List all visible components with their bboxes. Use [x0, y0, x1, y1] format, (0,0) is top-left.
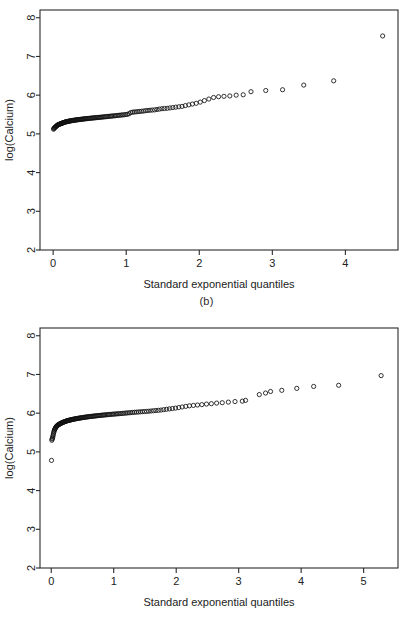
x-tick-label: 1 [111, 575, 117, 587]
data-point [268, 389, 272, 393]
data-point [222, 94, 226, 98]
y-tick-label: 8 [25, 15, 37, 21]
qq-plot-panel-b: 234567801234Standard exponential quantil… [0, 0, 413, 318]
x-axis: 012345 [48, 568, 367, 587]
data-point-series [51, 34, 384, 131]
y-tick-label: 7 [25, 53, 37, 59]
data-point [233, 399, 237, 403]
qq-plot-panel-c: 2345678012345Standard exponential quanti… [0, 318, 413, 636]
data-point [302, 83, 306, 87]
data-point [215, 401, 219, 405]
data-point [216, 95, 220, 99]
x-tick-label: 3 [236, 575, 242, 587]
data-point [257, 392, 261, 396]
data-point [228, 94, 232, 98]
data-point [200, 403, 204, 407]
data-point [280, 88, 284, 92]
y-axis-title: log(Calcium) [3, 417, 15, 479]
x-tick-label: 5 [361, 575, 367, 587]
data-point [381, 34, 385, 38]
x-axis-title: Standard exponential quantiles [143, 278, 295, 290]
data-point [207, 97, 211, 101]
x-tick-label: 1 [123, 257, 129, 269]
y-tick-label: 6 [25, 410, 37, 416]
y-tick-label: 3 [25, 526, 37, 532]
data-point [49, 458, 53, 462]
y-tick-label: 5 [25, 449, 37, 455]
y-axis-title: log(Calcium) [3, 99, 15, 161]
data-point [234, 93, 238, 97]
data-point [263, 391, 267, 395]
data-point [332, 79, 336, 83]
y-tick-label: 2 [25, 247, 37, 253]
x-axis: 01234 [50, 250, 348, 269]
data-point [204, 402, 208, 406]
y-axis: 2345678 [25, 15, 40, 253]
data-point [249, 90, 253, 94]
data-point [226, 400, 230, 404]
x-tick-label: 2 [173, 575, 179, 587]
data-point [312, 384, 316, 388]
y-axis: 2345678 [25, 333, 40, 571]
qq-plot-c-canvas: 2345678012345Standard exponential quanti… [0, 318, 413, 636]
plot-frame [40, 328, 398, 568]
qq-plot-b-canvas: 234567801234Standard exponential quantil… [0, 0, 413, 318]
panel-b-caption: (b) [0, 295, 413, 307]
x-tick-label: 4 [298, 575, 304, 587]
x-tick-label: 2 [196, 257, 202, 269]
data-point [209, 402, 213, 406]
y-tick-label: 6 [25, 92, 37, 98]
data-point [198, 100, 202, 104]
x-tick-label: 3 [269, 257, 275, 269]
data-point [202, 98, 206, 102]
y-tick-label: 4 [25, 488, 37, 494]
y-tick-label: 3 [25, 208, 37, 214]
y-tick-label: 7 [25, 371, 37, 377]
data-point [379, 374, 383, 378]
data-point [241, 93, 245, 97]
y-tick-label: 8 [25, 333, 37, 339]
data-point [211, 95, 215, 99]
x-axis-title: Standard exponential quantiles [143, 596, 295, 608]
x-tick-label: 0 [50, 257, 56, 269]
plot-frame [40, 10, 398, 250]
data-point [195, 403, 199, 407]
data-point [280, 388, 284, 392]
x-tick-label: 4 [342, 257, 348, 269]
y-tick-label: 4 [25, 170, 37, 176]
data-point [295, 386, 299, 390]
data-point-series [49, 374, 383, 463]
data-point [264, 88, 268, 92]
y-tick-label: 2 [25, 565, 37, 571]
data-point [220, 401, 224, 405]
data-point [337, 383, 341, 387]
y-tick-label: 5 [25, 131, 37, 137]
x-tick-label: 0 [48, 575, 54, 587]
